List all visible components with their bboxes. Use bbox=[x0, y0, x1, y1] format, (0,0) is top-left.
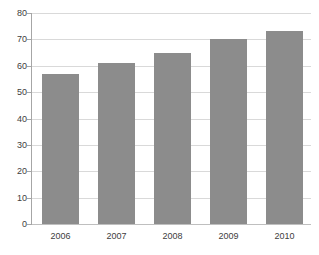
x-axis-label-2009: 2009 bbox=[210, 231, 247, 241]
gridline-0-baseline bbox=[31, 224, 311, 225]
y-axis-label-40: 40 bbox=[17, 115, 27, 124]
bar-2008[interactable] bbox=[154, 53, 191, 224]
y-axis-label-10: 10 bbox=[17, 194, 27, 203]
bar-slot-2007 bbox=[98, 13, 135, 224]
bar-chart: 80 70 60 50 40 30 20 10 0 bbox=[0, 0, 319, 255]
x-axis-label-2006: 2006 bbox=[42, 231, 79, 241]
x-axis-label-2010: 2010 bbox=[266, 231, 303, 241]
bars-layer bbox=[31, 13, 311, 224]
y-axis-label-80: 80 bbox=[17, 9, 27, 18]
y-axis-label-60: 60 bbox=[17, 62, 27, 71]
bar-2006[interactable] bbox=[42, 74, 79, 224]
y-axis-label-0: 0 bbox=[22, 220, 27, 229]
bar-2007[interactable] bbox=[98, 63, 135, 224]
y-axis-label-20: 20 bbox=[17, 167, 27, 176]
x-axis-label-2008: 2008 bbox=[154, 231, 191, 241]
bar-slot-2010 bbox=[266, 13, 303, 224]
bar-slot-2006 bbox=[42, 13, 79, 224]
y-axis-label-50: 50 bbox=[17, 88, 27, 97]
y-tick-0 bbox=[27, 224, 31, 225]
bar-2010[interactable] bbox=[266, 31, 303, 224]
y-axis-label-70: 70 bbox=[17, 35, 27, 44]
bar-2009[interactable] bbox=[210, 39, 247, 224]
y-axis-label-30: 30 bbox=[17, 141, 27, 150]
bar-slot-2009 bbox=[210, 13, 247, 224]
x-axis-label-2007: 2007 bbox=[98, 231, 135, 241]
bar-slot-2008 bbox=[154, 13, 191, 224]
